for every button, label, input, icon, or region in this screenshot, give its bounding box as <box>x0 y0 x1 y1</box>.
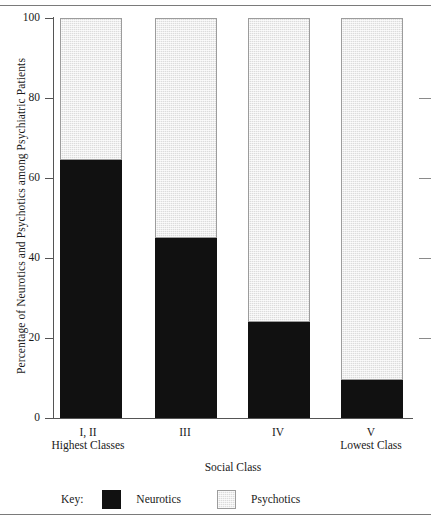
bar-segment-psychotics-0[interactable] <box>60 18 122 160</box>
y-tick-label-0: 0 <box>0 412 40 424</box>
bar-segment-neurotics-0[interactable] <box>60 160 122 418</box>
x-axis-title: Social Class <box>53 461 413 473</box>
x-axis-line <box>53 418 413 419</box>
x-category-name-3: V <box>303 426 431 439</box>
chart-legend: Key: Neurotics Psychotics <box>61 488 336 510</box>
y-axis-title: Percentage of Neurotics and Psychotics a… <box>15 16 27 416</box>
legend-item-neurotics[interactable]: Neurotics <box>102 490 181 509</box>
figure: Percentage of Neurotics and Psychotics a… <box>0 0 431 523</box>
legend-label-neurotics: Neurotics <box>136 493 181 505</box>
plot-area <box>53 18 413 418</box>
bar-segment-psychotics-3[interactable] <box>341 18 403 380</box>
x-category-sublabel-0: Highest Classes <box>20 439 156 452</box>
right-tick-80 <box>419 98 431 99</box>
y-tick-label-80: 80 <box>0 92 40 104</box>
bar-segment-neurotics-3[interactable] <box>341 380 403 418</box>
legend-title: Key: <box>61 493 83 505</box>
legend-swatch-neurotics-icon <box>102 490 121 509</box>
legend-label-psychotics: Psychotics <box>251 493 300 505</box>
y-tick-label-40: 40 <box>0 252 40 264</box>
legend-item-psychotics[interactable]: Psychotics <box>217 490 300 509</box>
y-tick-label-20: 20 <box>0 332 40 344</box>
bar-segment-psychotics-2[interactable] <box>248 18 310 322</box>
bar-group-1 <box>155 18 217 418</box>
x-category-label-3: V Lowest Class <box>303 426 431 452</box>
right-tick-20 <box>419 338 431 339</box>
bar-segment-neurotics-1[interactable] <box>155 238 217 418</box>
legend-swatch-psychotics-icon <box>217 490 236 509</box>
bar-group-2 <box>248 18 310 418</box>
bar-group-0 <box>60 18 122 418</box>
bar-segment-neurotics-2[interactable] <box>248 322 310 418</box>
top-rule <box>0 5 431 6</box>
y-tick-label-100: 100 <box>0 12 40 24</box>
bottom-rule <box>0 514 431 515</box>
bar-group-3 <box>341 18 403 418</box>
right-tick-40 <box>419 258 431 259</box>
y-tick-label-60: 60 <box>0 172 40 184</box>
x-category-sublabel-3: Lowest Class <box>303 439 431 452</box>
bar-segment-psychotics-1[interactable] <box>155 18 217 238</box>
y-tick-0 <box>45 418 54 419</box>
right-tick-60 <box>419 178 431 179</box>
